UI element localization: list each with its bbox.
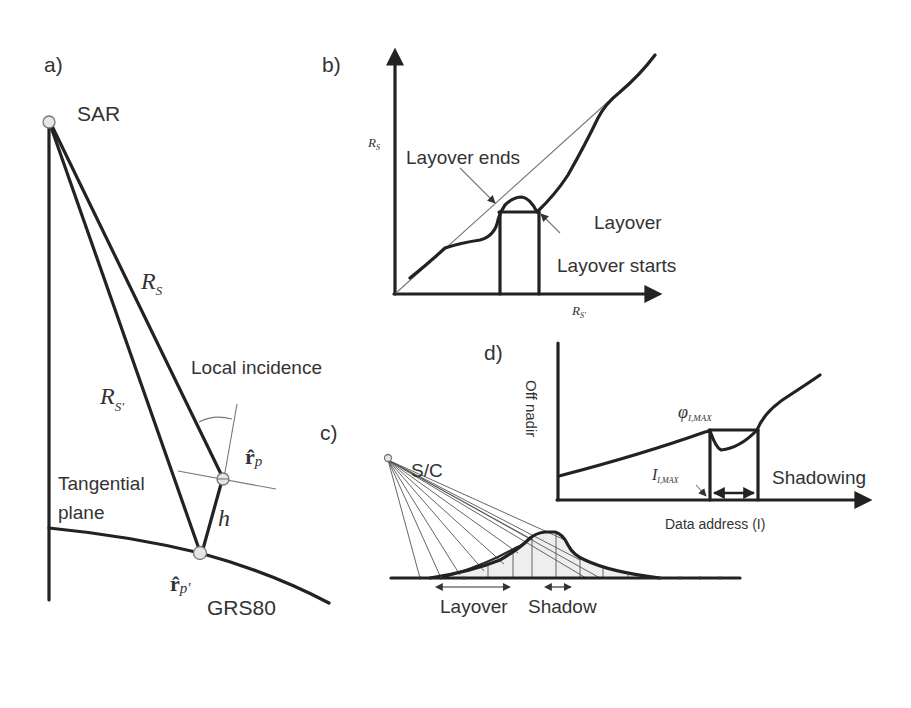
panel-b-label: b) bbox=[322, 53, 341, 76]
b-y-axis-label: RS bbox=[367, 135, 380, 152]
d-i-label: II,MAX bbox=[651, 466, 680, 485]
sar-label: SAR bbox=[77, 102, 120, 125]
sc-label: S/C bbox=[411, 460, 443, 481]
rp-prime-node bbox=[194, 547, 207, 560]
d-off-nadir-curve bbox=[559, 375, 820, 476]
normal-line bbox=[224, 404, 237, 478]
layover-starts-pointer bbox=[541, 214, 560, 233]
c-shadow-label: Shadow bbox=[528, 596, 597, 617]
rs-label: RS bbox=[140, 268, 163, 298]
range-line-rs bbox=[52, 126, 221, 474]
panel-c-label: c) bbox=[320, 421, 338, 444]
sar-geometry-figure: a) SAR RS RS' Local incidence Tangential… bbox=[0, 0, 911, 708]
rp-label: r̂p bbox=[245, 444, 263, 469]
b-x-axis-label: RS' bbox=[571, 303, 586, 320]
grs80-label: GRS80 bbox=[207, 596, 276, 619]
panel-d-label: d) bbox=[484, 341, 503, 364]
d-phi-label: φI,MAX bbox=[678, 402, 712, 423]
incidence-angle-arc bbox=[199, 417, 232, 422]
rp-prime-label: r̂p' bbox=[170, 571, 191, 596]
local-incidence-label: Local incidence bbox=[191, 357, 322, 378]
layover-ends-pointer bbox=[460, 168, 495, 203]
layover-starts-label: Layover starts bbox=[557, 255, 676, 276]
d-y-axis-label: Off nadir bbox=[523, 380, 540, 437]
height-label: h bbox=[218, 505, 230, 531]
d-x-axis-label: Data address (I) bbox=[665, 516, 765, 532]
panel-a-label: a) bbox=[44, 53, 63, 76]
layover-ends-label: Layover ends bbox=[406, 147, 520, 168]
rs-prime-label: RS' bbox=[99, 383, 124, 414]
panel-b: b) RS RS' Layover ends Layover Layover s… bbox=[322, 53, 676, 320]
c-layover-label: Layover bbox=[440, 596, 508, 617]
sar-node bbox=[43, 116, 55, 128]
sc-node bbox=[385, 455, 392, 462]
panel-d: d) Off nadir Data address (I) φI,MAX II,… bbox=[484, 341, 866, 532]
d-imax-pointer bbox=[696, 485, 706, 496]
layover-label: Layover bbox=[594, 212, 662, 233]
tangential-label: Tangential bbox=[58, 473, 145, 494]
d-shadowing-label: Shadowing bbox=[772, 467, 866, 488]
panel-a: a) SAR RS RS' Local incidence Tangential… bbox=[43, 53, 329, 619]
plane-label: plane bbox=[58, 502, 105, 523]
